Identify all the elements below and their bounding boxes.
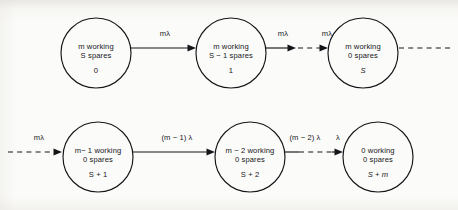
- state-node-index-4: S + 2: [200, 170, 300, 179]
- state-node-line1-1: m working: [181, 42, 281, 51]
- state-transition-diagram: m working S spares 0 m working S − 1 spa…: [0, 0, 458, 210]
- state-node-label-4: m − 2 working 0 spares: [200, 146, 300, 165]
- state-node-line2-1: S − 1 spares: [181, 51, 281, 60]
- state-node-line1-5: 0 working: [328, 146, 428, 155]
- state-node-index-3: S + 1: [48, 170, 148, 179]
- edge-label-2: mλ: [307, 29, 347, 38]
- state-node-index-2: S: [313, 66, 413, 75]
- state-node-index-1: 1: [181, 66, 281, 75]
- edge-label-7: λ: [319, 133, 357, 142]
- state-node-line1-2: m working: [313, 42, 413, 51]
- state-node-label-5: 0 working 0 spares: [328, 146, 428, 165]
- edge-arrowhead-1: [288, 44, 297, 51]
- state-node-label-0: m working S spares: [46, 42, 146, 61]
- state-node-line2-4: 0 spares: [200, 155, 300, 164]
- state-node-line1-0: m working: [46, 42, 146, 51]
- state-node-index-0: 0: [46, 66, 146, 75]
- state-node-line2-3: 0 spares: [48, 155, 148, 164]
- edge-label-5: (m − 1) λ: [144, 133, 210, 142]
- edge-label-4: mλ: [19, 133, 59, 142]
- state-node-line1-3: m− 1 working: [48, 146, 148, 155]
- state-node-label-1: m working S − 1 spares: [181, 42, 281, 61]
- state-node-line2-0: S spares: [46, 51, 146, 60]
- state-node-line2-2: 0 spares: [313, 51, 413, 60]
- state-node-label-2: m working 0 spares: [313, 42, 413, 61]
- edge-label-0: mλ: [145, 29, 185, 38]
- state-node-line2-5: 0 spares: [328, 155, 428, 164]
- edge-label-1: mλ: [263, 29, 303, 38]
- state-node-label-3: m− 1 working 0 spares: [48, 146, 148, 165]
- state-node-index-5: S + m: [328, 170, 428, 179]
- state-node-line1-4: m − 2 working: [200, 146, 300, 155]
